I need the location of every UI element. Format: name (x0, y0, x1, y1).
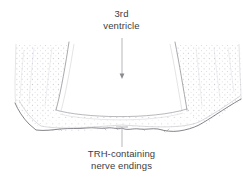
label-trh-nerve-endings: TRH-containing nerve endings (0, 148, 243, 171)
figure-container: 3rd ventricle TRH-containing nerve endin… (0, 0, 243, 188)
tissue-outline-left (15, 44, 16, 104)
label-third-ventricle-line1: 3rd (0, 8, 243, 20)
label-third-ventricle-line2: ventricle (0, 20, 243, 32)
label-trh-line2: nerve endings (0, 160, 243, 172)
third-ventricle-cavity (56, 44, 187, 117)
label-third-ventricle: 3rd ventricle (0, 8, 243, 31)
trh-leader-line (116, 127, 128, 147)
label-trh-line1: TRH-containing (0, 148, 243, 160)
